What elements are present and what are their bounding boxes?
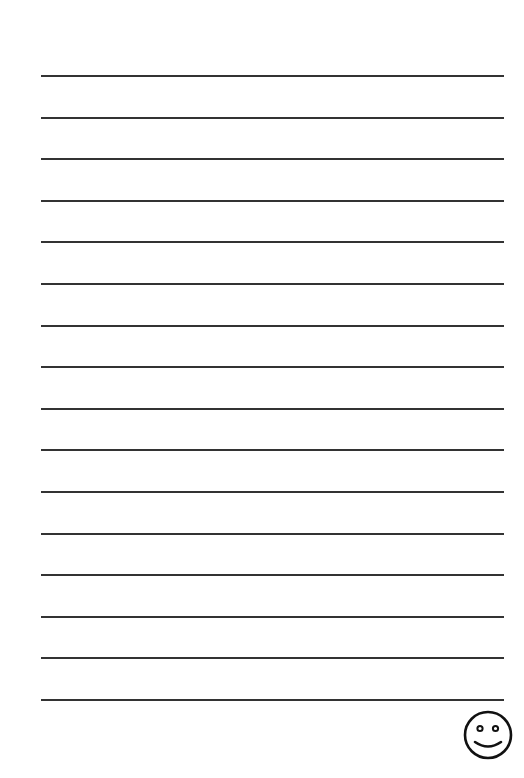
ruled-line — [41, 699, 504, 701]
smiley-face-icon — [461, 709, 515, 763]
ruled-line — [41, 158, 504, 160]
ruled-line — [41, 283, 504, 285]
ruled-line — [41, 241, 504, 243]
ruled-line — [41, 408, 504, 410]
ruled-line — [41, 491, 504, 493]
lined-paper-page — [0, 0, 524, 778]
ruled-line — [41, 657, 504, 659]
ruled-line — [41, 533, 504, 535]
ruled-line — [41, 75, 504, 77]
ruled-line — [41, 325, 504, 327]
ruled-line — [41, 117, 504, 119]
ruled-line — [41, 449, 504, 451]
ruled-line — [41, 200, 504, 202]
ruled-line — [41, 366, 504, 368]
ruled-line — [41, 574, 504, 576]
ruled-line — [41, 616, 504, 618]
